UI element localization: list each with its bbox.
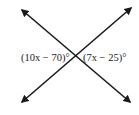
left-angle-label: (10x − 70)° (21, 52, 70, 64)
intersecting-lines-diagram: (10x − 70)° (7x − 25)° (0, 0, 139, 115)
right-angle-label: (7x − 25)° (83, 52, 126, 64)
